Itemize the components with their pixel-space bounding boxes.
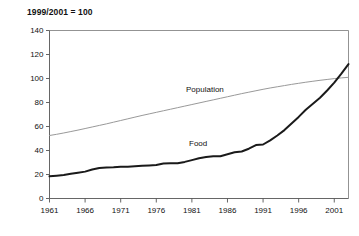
line-chart-plot: 020406080100120140 196119661971197619811… (0, 0, 359, 236)
y-tick-label: 0 (39, 194, 44, 203)
series-line-food (50, 64, 349, 176)
x-axis-ticks: 196119661971197619811986199119962001 (41, 199, 344, 215)
y-tick-label: 20 (35, 170, 44, 179)
series-label-population: Population (186, 85, 224, 94)
chart-container: 1999/2001 = 100 020406080100120140 19611… (0, 0, 359, 236)
y-tick-label: 100 (30, 74, 44, 83)
x-tick-label: 1961 (41, 206, 59, 215)
x-tick-label: 1971 (112, 206, 130, 215)
x-tick-label: 1976 (147, 206, 165, 215)
y-tick-label: 120 (30, 50, 44, 59)
x-tick-label: 1981 (183, 206, 201, 215)
y-axis-ticks: 020406080100120140 (30, 26, 49, 203)
plot-frame (50, 31, 349, 199)
series-labels-group: PopulationFood (186, 85, 224, 148)
y-tick-label: 60 (35, 122, 44, 131)
x-tick-label: 2001 (325, 206, 343, 215)
data-series-group (50, 64, 349, 176)
y-tick-label: 140 (30, 26, 44, 35)
y-tick-label: 40 (35, 146, 44, 155)
series-label-food: Food (189, 139, 207, 148)
x-tick-label: 1996 (290, 206, 308, 215)
y-tick-label: 80 (35, 98, 44, 107)
x-tick-label: 1966 (76, 206, 94, 215)
x-tick-label: 1991 (254, 206, 272, 215)
x-tick-label: 1986 (219, 206, 237, 215)
